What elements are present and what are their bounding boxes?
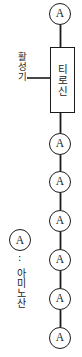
legend-separator: ∶ bbox=[18, 254, 22, 264]
amino-acid-node: A bbox=[49, 327, 71, 349]
amino-acid-node: A bbox=[49, 249, 71, 271]
legend: A ∶ 아미노산 bbox=[9, 229, 31, 308]
legend-amino-acid-symbol: A bbox=[9, 229, 31, 251]
diagram-canvas: 활성기 티로신 A A A A A A A A ∶ 아미노산 bbox=[0, 0, 82, 357]
legend-amino-acid-text: 아미노산 bbox=[15, 268, 26, 308]
active-group-callout-label: 활성기 bbox=[16, 52, 26, 82]
amino-acid-node: A bbox=[49, 210, 71, 232]
amino-acid-node: A bbox=[49, 3, 71, 25]
tyrosine-label: 티로신 bbox=[57, 64, 68, 97]
amino-acid-node: A bbox=[49, 171, 71, 193]
tyrosine-residue-box: 티로신 bbox=[50, 47, 75, 113]
amino-acid-node: A bbox=[49, 133, 71, 155]
amino-acid-node: A bbox=[49, 288, 71, 310]
